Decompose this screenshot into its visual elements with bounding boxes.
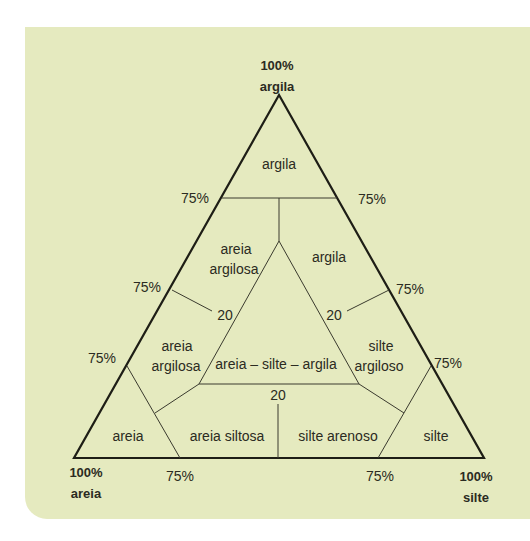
bottom-left-vertex-percent: 100% [69,465,103,480]
inner-label-bottom-20: 20 [270,387,286,403]
top-vertex-percent: 100% [260,58,294,73]
bottom-right-vertex-percent: 100% [459,469,493,484]
bottom-right-vertex-label: silte [463,490,489,505]
right-20-tick [347,290,389,311]
region-silte: silte [424,428,449,444]
region-areia-siltosa: areia siltosa [190,428,265,444]
region-argila-right: argila [312,249,346,265]
region-areia-argilosa-upper-line2: argilosa [209,261,258,277]
silte-arenoso-divider [359,384,404,413]
tick-label-left-middle: 75% [133,279,161,295]
region-areia-silte-argila: areia – silte – argila [215,356,337,372]
top-vertex-label: argila [260,79,295,94]
tick-label-right-lower: 75% [434,355,462,371]
tick-label-left-upper: 75% [181,190,209,206]
region-areia-argilosa-lower-line1: areia [161,338,192,354]
region-silte-arenoso: silte arenoso [298,428,378,444]
region-areia-argilosa-lower-line2: argilosa [151,358,200,374]
tick-label-left-lower: 75% [88,350,116,366]
areia-siltosa-divider [155,384,199,413]
inner-label-left-20: 20 [217,307,233,323]
region-silte-argiloso-line2: argiloso [354,358,403,374]
inner-label-right-20: 20 [326,307,342,323]
silte-75-line [378,366,431,458]
region-areia-argilosa-upper-line1: areia [220,241,251,257]
tick-label-right-middle: 75% [396,281,424,297]
soil-texture-triangle: 100% argila 100% areia 100% silte 75% 75… [0,0,530,541]
tick-label-bottom-left: 75% [166,468,194,484]
tick-label-right-upper: 75% [358,191,386,207]
outer-triangle [74,95,484,458]
region-areia: areia [112,428,143,444]
bottom-left-vertex-label: areia [71,486,102,501]
tick-label-bottom-right: 75% [366,468,394,484]
areia-75-line [127,366,180,458]
region-silte-argiloso-line1: silte [369,338,394,354]
left-20-tick [172,290,212,311]
region-argila-top: argila [262,156,296,172]
